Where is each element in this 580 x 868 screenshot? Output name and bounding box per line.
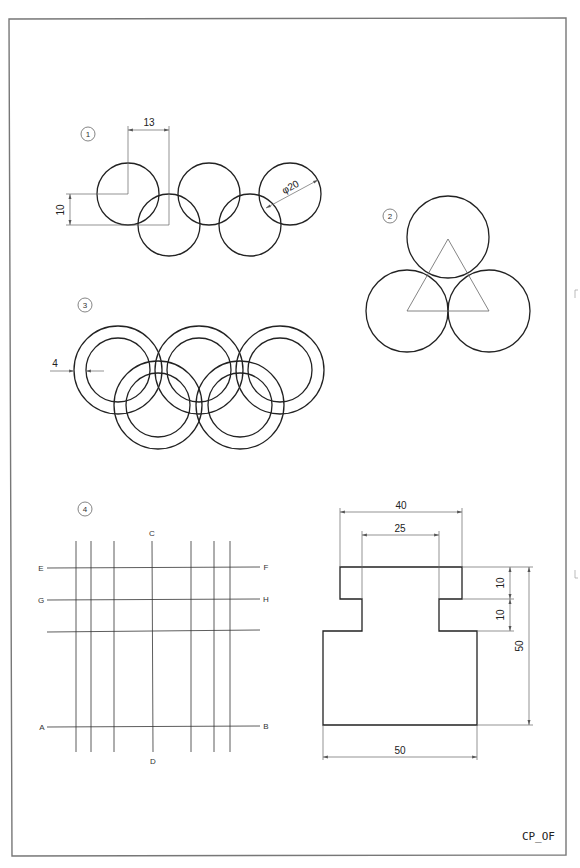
margin-mark-top <box>575 290 578 298</box>
title-block-code: CP_OF <box>522 830 555 843</box>
figure-part-profile: 40 25 50 10 10 50 <box>323 500 533 760</box>
dimension-neck-height: 10 <box>495 609 506 621</box>
ring-2 <box>114 361 202 449</box>
figure-2: 2 <box>366 196 530 352</box>
label-a: A <box>39 723 45 732</box>
vertical-lines <box>76 541 230 752</box>
circle-5 <box>259 163 321 225</box>
dimension-top-height: 10 <box>495 577 506 589</box>
ring-5 <box>236 326 324 414</box>
circle-4 <box>219 194 281 256</box>
figure-3: 3 4 <box>50 298 324 449</box>
label-g: G <box>38 596 44 605</box>
dimension-vertical-offset: 10 <box>55 204 66 216</box>
ring-1 <box>74 326 162 414</box>
circle-3 <box>178 163 240 225</box>
dimension-total-height: 50 <box>514 640 525 652</box>
label-e: E <box>38 564 43 573</box>
label-f: F <box>264 563 269 572</box>
dimension-base-width: 50 <box>394 745 406 756</box>
ring-4 <box>196 361 284 449</box>
sheet-border <box>9 18 566 856</box>
label-c: C <box>149 529 155 538</box>
dimension-ring-thickness: 4 <box>52 358 58 369</box>
margin-mark-bottom <box>575 570 578 578</box>
drawing-sheet: 1 13 10 φ20 2 3 <box>0 0 580 868</box>
circle-top <box>407 196 489 278</box>
dimension-diameter: φ20 <box>280 178 301 196</box>
figure-1: 1 13 10 φ20 <box>55 117 321 256</box>
label-b: B <box>263 722 268 731</box>
dimension-neck-width: 25 <box>394 523 406 534</box>
figure-4: 4 C D E F G H A B <box>38 502 269 766</box>
dimension-top-width: 40 <box>395 500 407 511</box>
part-outline <box>323 567 477 725</box>
figure-number: 3 <box>83 301 88 310</box>
label-h: H <box>263 595 269 604</box>
center-triangle <box>407 239 489 311</box>
figure-number: 1 <box>86 130 91 139</box>
ring-3 <box>155 326 243 414</box>
horizontal-lines <box>47 567 260 727</box>
figure-number: 2 <box>388 212 393 221</box>
dimension-horizontal-offset: 13 <box>143 117 155 128</box>
figure-number: 4 <box>83 505 88 514</box>
label-d: D <box>150 757 156 766</box>
